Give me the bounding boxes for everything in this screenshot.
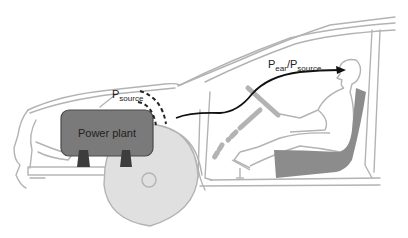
power-plant: Power plant — [61, 110, 153, 156]
p-source-label: Psource — [112, 88, 144, 103]
transfer-ratio-label: Pear/Psource — [268, 58, 322, 73]
power-plant-label: Power plant — [78, 127, 136, 139]
engine-mount-left — [77, 150, 90, 167]
steering-column — [214, 88, 278, 158]
engine-mount-right — [120, 150, 132, 167]
pedal — [232, 160, 250, 178]
car-acoustic-diagram: Power plant Psource — [0, 0, 408, 238]
